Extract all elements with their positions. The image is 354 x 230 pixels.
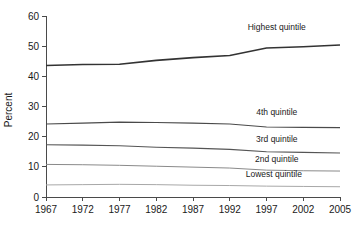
- y-tick-label: 60: [28, 11, 40, 22]
- x-tick-label: 1987: [182, 204, 205, 215]
- series-label: 3rd quintile: [256, 134, 298, 144]
- chart-container: 0102030405060 19671972197719821987199219…: [0, 0, 354, 230]
- series-label: 2nd quintile: [255, 154, 299, 164]
- x-tick-label: 1977: [108, 204, 131, 215]
- series-label: 4th quintile: [256, 107, 297, 117]
- y-tick-label: 0: [33, 192, 39, 203]
- x-tick-label: 1997: [255, 204, 278, 215]
- x-tick-label: 2005: [329, 204, 352, 215]
- x-tick-label: 1967: [35, 204, 58, 215]
- line-chart: 0102030405060 19671972197719821987199219…: [0, 0, 354, 230]
- plot-background: [0, 0, 354, 230]
- y-tick-label: 50: [28, 41, 40, 52]
- y-tick-label: 30: [28, 101, 40, 112]
- series-label: Lowest quintile: [246, 169, 303, 179]
- x-tick-label: 1982: [145, 204, 168, 215]
- y-tick-label: 10: [28, 161, 40, 172]
- x-tick-label: 1972: [72, 204, 95, 215]
- series-label: Highest quintile: [248, 22, 306, 32]
- x-tick-label: 1992: [219, 204, 242, 215]
- y-tick-label: 20: [28, 131, 40, 142]
- y-tick-label: 40: [28, 71, 40, 82]
- x-tick-label: 2002: [292, 204, 315, 215]
- y-axis-title: Percent: [3, 93, 14, 128]
